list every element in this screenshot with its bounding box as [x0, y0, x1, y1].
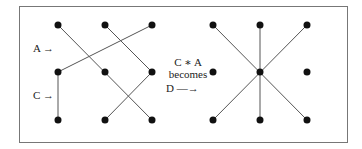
- dot: [210, 22, 217, 29]
- label-a: A →: [33, 42, 54, 54]
- dot: [149, 69, 156, 76]
- dot: [102, 22, 109, 29]
- edge: [105, 25, 152, 72]
- label-d-arrow: D —→: [166, 82, 199, 94]
- dot: [257, 69, 264, 76]
- dot: [257, 22, 264, 29]
- label-becomes: becomes: [163, 68, 213, 80]
- dot: [149, 117, 156, 124]
- dot: [149, 22, 156, 29]
- dot: [257, 117, 264, 124]
- label-c: C →: [33, 89, 54, 101]
- dot: [304, 22, 311, 29]
- dot: [55, 117, 62, 124]
- dot: [304, 69, 311, 76]
- dot: [102, 117, 109, 124]
- dot: [55, 22, 62, 29]
- edge: [58, 25, 152, 72]
- dot: [102, 69, 109, 76]
- dot: [304, 117, 311, 124]
- dot: [210, 117, 217, 124]
- dot: [55, 69, 62, 76]
